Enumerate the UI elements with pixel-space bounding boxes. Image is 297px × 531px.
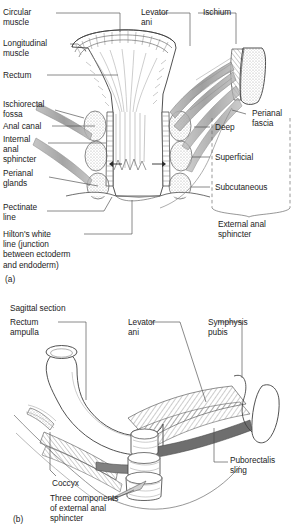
label-circular-muscle: Circular muscle xyxy=(3,7,31,27)
label-puborectalis-sling: Puborectalis sling xyxy=(230,455,275,475)
symphysis-pubis-bone xyxy=(252,385,279,443)
bracket-curly-bottom xyxy=(212,208,290,217)
label-rectum-ampulla: Rectum ampulla xyxy=(10,317,39,337)
label-superficial: Superficial xyxy=(215,152,253,162)
label-symphysis-pubis: Symphysis pubis xyxy=(208,317,248,337)
label-anal-canal: Anal canal xyxy=(3,121,41,131)
label-perianal-fascia: Perianal fascia xyxy=(252,108,282,128)
anatomy-figure: Circular muscle Longitudinal muscle Rect… xyxy=(0,0,297,531)
panel-a-id: (a) xyxy=(5,274,15,284)
coccyx-bone xyxy=(26,405,56,430)
label-pectinate-line: Pectinate line xyxy=(3,202,37,222)
label-external-anal-sphincter: External anal sphincter xyxy=(218,219,266,239)
label-three-components: Three components of external anal sphinc… xyxy=(50,493,118,524)
label-ischium: Ischium xyxy=(203,7,231,17)
label-internal-anal-sphincter: Internal anal sphincter xyxy=(3,134,36,165)
label-levator-ani-a: Levator ani xyxy=(141,7,168,27)
rectum-outline xyxy=(72,30,176,197)
label-perianal-glands: Perianal glands xyxy=(3,168,33,188)
label-deep: Deep xyxy=(215,122,235,132)
panel-b-id: (b) xyxy=(13,514,23,524)
label-longitudinal-muscle: Longitudinal muscle xyxy=(3,38,47,58)
label-hiltons-white-line: Hilton's white line (junction between ec… xyxy=(3,229,70,270)
panel-b-title: Sagittal section xyxy=(10,303,65,313)
label-coccyx: Coccyx xyxy=(52,478,79,488)
label-levator-ani-b: Levator ani xyxy=(128,317,155,337)
label-rectum: Rectum xyxy=(3,70,31,80)
label-ischiorectal-fossa: Ischiorectal fossa xyxy=(3,99,44,119)
label-subcutaneous: Subcutaneous xyxy=(215,182,267,192)
